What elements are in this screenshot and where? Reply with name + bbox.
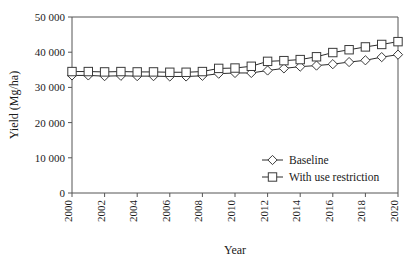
data-point — [247, 62, 255, 70]
data-point — [393, 50, 402, 59]
data-point — [361, 56, 370, 65]
data-point — [312, 61, 321, 70]
x-tick-label: 2020 — [388, 200, 400, 223]
y-axis: 010 00020 00030 00040 00050 000 — [35, 11, 72, 199]
data-point — [215, 64, 223, 72]
yield-line-chart: 010 00020 00030 00040 00050 000200020022… — [0, 0, 414, 261]
legend-marker-square — [268, 173, 276, 181]
data-point — [149, 68, 157, 76]
y-tick-label: 40 000 — [35, 46, 66, 58]
data-point — [394, 37, 402, 45]
data-point — [182, 68, 190, 76]
legend-label: Baseline — [289, 154, 329, 166]
x-tick-label: 2000 — [62, 200, 74, 223]
data-point — [329, 48, 337, 56]
legend: BaselineWith use restriction — [262, 154, 379, 183]
y-tick-label: 20 000 — [35, 117, 66, 129]
x-tick-label: 2018 — [355, 200, 367, 223]
chart-figure: 010 00020 00030 00040 00050 000200020022… — [0, 0, 414, 261]
x-tick-label: 2016 — [323, 200, 335, 223]
y-tick-label: 30 000 — [35, 81, 66, 93]
data-point — [84, 67, 92, 75]
legend-label: With use restriction — [289, 171, 379, 183]
x-tick-label: 2002 — [95, 200, 107, 222]
data-point — [263, 57, 271, 65]
data-point — [361, 43, 369, 51]
data-point — [100, 68, 108, 76]
y-axis-title: Yield (Mg/ha) — [7, 71, 21, 139]
x-tick-label: 2012 — [258, 200, 270, 222]
data-point — [117, 67, 125, 75]
x-axis: 2000200220042006200820102012201420162018… — [62, 193, 400, 222]
y-tick-label: 50 000 — [35, 11, 66, 23]
axes-frame — [72, 17, 398, 193]
x-tick-label: 2006 — [160, 200, 172, 223]
legend-item[interactable]: Baseline — [262, 154, 329, 166]
series-with-use-restriction — [68, 37, 402, 76]
data-point — [312, 53, 320, 61]
x-tick-label: 2004 — [127, 200, 139, 223]
data-point — [377, 53, 386, 62]
data-point — [68, 67, 76, 75]
y-tick-label: 0 — [60, 187, 66, 199]
y-tick-label: 10 000 — [35, 152, 66, 164]
data-point — [328, 60, 337, 69]
data-point — [166, 68, 174, 76]
x-tick-label: 2010 — [225, 200, 237, 223]
data-point — [198, 67, 206, 75]
data-point — [345, 57, 354, 66]
data-point — [296, 55, 304, 63]
data-point — [231, 64, 239, 72]
data-point — [133, 68, 141, 76]
x-axis-title: Year — [224, 243, 246, 257]
x-tick-label: 2008 — [192, 200, 204, 223]
data-point — [345, 46, 353, 54]
data-point — [378, 40, 386, 48]
x-tick-label: 2014 — [290, 200, 302, 223]
data-point — [263, 66, 272, 75]
legend-item[interactable]: With use restriction — [262, 171, 379, 183]
data-point — [280, 56, 288, 64]
legend-marker-diamond — [268, 155, 277, 164]
